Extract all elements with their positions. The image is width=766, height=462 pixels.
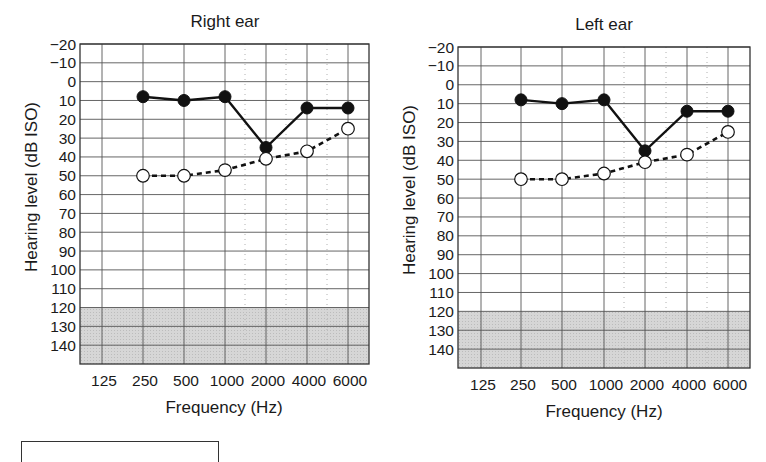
filled-circle-marker (556, 98, 568, 110)
open-circle-marker (681, 148, 694, 161)
x-tick-label: 125 (470, 376, 496, 393)
filled-circle-marker (722, 105, 734, 117)
open-circle-marker (515, 173, 528, 186)
y-tick-label: 80 (437, 227, 455, 244)
filled-circle-marker (598, 94, 610, 106)
x-tick-label: 4000 (672, 376, 707, 393)
open-circle-marker (722, 126, 735, 139)
y-tick-label: 90 (437, 246, 455, 263)
y-tick-label: 120 (428, 303, 454, 320)
y-tick-label: 20 (437, 114, 455, 131)
x-tick-label: 250 (510, 376, 536, 393)
y-tick-label: 60 (437, 190, 455, 207)
y-tick-label: 30 (437, 133, 455, 150)
y-tick-label: 50 (437, 171, 455, 188)
filled-circle-marker (515, 94, 527, 106)
y-tick-label: 110 (429, 284, 454, 301)
filled-circle-marker (639, 145, 651, 157)
x-tick-label: 500 (551, 376, 577, 393)
y-tick-label: 130 (428, 322, 454, 339)
x-tick-label: 1000 (589, 376, 624, 393)
x-tick-label: 2000 (630, 376, 665, 393)
y-tick-label: 140 (428, 341, 454, 358)
y-tick-label: 100 (428, 265, 454, 282)
y-tick-label: 40 (437, 152, 455, 169)
open-circle-marker (639, 156, 652, 169)
y-tick-label: −10 (428, 57, 455, 74)
legend-box (21, 441, 219, 462)
y-tick-label: 10 (437, 95, 455, 112)
x-tick-label: 6000 (713, 376, 748, 393)
open-circle-marker (598, 167, 611, 180)
filled-circle-marker (681, 105, 693, 117)
y-tick-label: 0 (445, 76, 454, 93)
y-tick-label: −20 (428, 39, 455, 56)
open-circle-marker (556, 173, 569, 186)
y-tick-label: 70 (437, 208, 455, 225)
